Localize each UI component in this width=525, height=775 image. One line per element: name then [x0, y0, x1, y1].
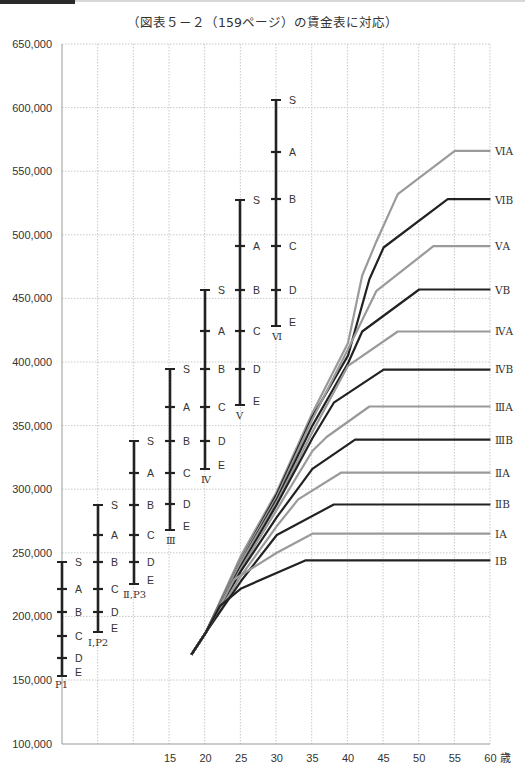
x-tick-label: 25 [235, 752, 247, 764]
grade-label: A [111, 529, 118, 541]
bar-label: Ⅲ [166, 535, 176, 546]
grade-label: S [147, 435, 154, 447]
grade-label: E [75, 666, 82, 678]
curve-ⅣA [191, 332, 490, 655]
grade-label: B [218, 363, 225, 375]
grade-label: C [289, 240, 297, 252]
grade-label: E [147, 574, 154, 586]
bar-label: Ⅵ [271, 331, 282, 342]
bar-label: Ⅴ [235, 410, 244, 421]
x-tick-label: 50 [413, 752, 425, 764]
grade-range-bars: SABCDEP1SABCDEⅠ,P2SABCDEⅡ,P3SABCDEⅢSABCD… [55, 94, 297, 690]
range-bar: SABCDEⅢ [165, 363, 191, 546]
y-tick-label: 550,000 [12, 165, 52, 177]
bar-label: Ⅳ [201, 474, 212, 485]
grade-label: E [218, 459, 225, 471]
grade-label: D [111, 606, 119, 618]
curve-label: ⅣB [495, 363, 513, 375]
grade-label: A [218, 325, 225, 337]
y-tick-label: 500,000 [12, 229, 52, 241]
grade-label: D [183, 498, 191, 510]
grade-label: C [253, 325, 261, 337]
grade-label: B [289, 193, 296, 205]
curve-ⅠA [191, 534, 490, 655]
range-bar: SABCDEⅠ,P2 [88, 499, 119, 648]
grade-label: C [183, 467, 191, 479]
grade-label: A [75, 583, 82, 595]
x-tick-label: 30 [271, 752, 283, 764]
x-tick-label: 55 [449, 752, 461, 764]
grade-label: B [253, 284, 260, 296]
grade-label: A [253, 240, 260, 252]
y-tick-label: 450,000 [12, 292, 52, 304]
curve-label: ⅣA [495, 325, 513, 337]
x-axis: 15202530354045505560歳 [62, 744, 511, 764]
curve-label: ⅤB [494, 284, 511, 296]
grade-label: D [218, 435, 226, 447]
y-tick-label: 600,000 [12, 102, 52, 114]
curve-label: ⅢA [495, 401, 513, 413]
range-bar: SABCDEⅥ [271, 94, 297, 342]
x-tick-label: 40 [342, 752, 354, 764]
grade-label: C [147, 529, 155, 541]
bar-label: Ⅱ,P3 [123, 589, 146, 600]
y-tick-label: 300,000 [12, 483, 52, 495]
grade-label: B [111, 556, 118, 568]
curve-label: ⅤA [494, 240, 511, 252]
grade-label: B [75, 606, 82, 618]
x-tick-label: 35 [306, 752, 318, 764]
grade-label: S [183, 363, 190, 375]
grade-label: C [111, 583, 119, 595]
bar-label: P1 [55, 679, 68, 690]
grade-label: S [253, 194, 260, 206]
x-tick-label: 15 [164, 752, 176, 764]
grade-label: E [253, 395, 260, 407]
grade-label: D [147, 556, 155, 568]
grade-label: A [183, 401, 190, 413]
x-tick-label: 20 [199, 752, 211, 764]
curve-label: ⅠB [495, 555, 507, 567]
curve-label: ⅢB [495, 434, 513, 446]
grade-label: B [183, 435, 190, 447]
range-bar: SABCDEⅣ [200, 284, 226, 485]
y-tick-label: 250,000 [12, 547, 52, 559]
grade-label: C [75, 630, 83, 642]
y-tick-label: 400,000 [12, 356, 52, 368]
y-tick-label: 150,000 [12, 674, 52, 686]
grade-label: A [289, 146, 296, 158]
y-tick-label: 100,000 [12, 738, 52, 750]
x-tick-label: 60 [484, 752, 496, 764]
range-bar: SABCDEⅡ,P3 [123, 435, 155, 600]
wage-curves [191, 151, 490, 655]
y-tick-label: 650,000 [12, 38, 52, 50]
grade-label: S [218, 284, 225, 296]
grade-label: C [218, 401, 226, 413]
grade-label: D [253, 363, 261, 375]
curve-labels: ⅥAⅥBⅤAⅤBⅣAⅣBⅢAⅢBⅡAⅡBⅠAⅠB [494, 145, 514, 567]
y-axis: 650,000600,000550,000500,000450,000400,0… [12, 38, 62, 750]
grade-label: D [75, 652, 83, 664]
bar-label: Ⅰ,P2 [88, 637, 108, 648]
y-tick-label: 200,000 [12, 610, 52, 622]
y-tick-label: 350,000 [12, 420, 52, 432]
grade-label: D [289, 284, 297, 296]
curve-ⅢA [191, 407, 490, 655]
grade-label: E [183, 520, 190, 532]
curve-label: ⅡB [495, 498, 510, 510]
grade-label: E [289, 316, 296, 328]
curve-label: ⅥB [494, 194, 514, 206]
wage-chart: 650,000600,000550,000500,000450,000400,0… [0, 0, 525, 775]
grade-label: B [147, 499, 154, 511]
range-bar: SABCDEⅤ [235, 194, 261, 421]
grade-label: S [289, 94, 296, 106]
grade-label: E [111, 622, 118, 634]
x-tick-label: 45 [377, 752, 389, 764]
curve-label: ⅥA [494, 145, 514, 157]
grade-label: A [147, 467, 154, 479]
curve-label: ⅡA [495, 467, 510, 479]
grade-label: S [75, 556, 82, 568]
x-unit-label: 歳 [500, 752, 511, 764]
curve-label: ⅠA [495, 528, 507, 540]
range-bar: SABCDEP1 [55, 556, 83, 690]
grade-label: S [111, 499, 118, 511]
